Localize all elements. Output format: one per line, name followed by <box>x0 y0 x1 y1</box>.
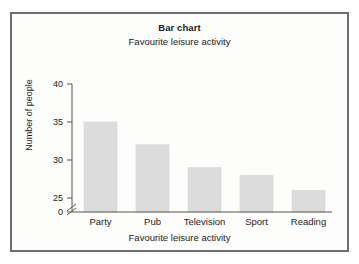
y-tick-label: 35 <box>53 117 63 127</box>
plot-svg: 025303540 PartyPubTelevisionSportReading <box>12 14 351 254</box>
x-tick-label-sport: Sport <box>245 216 268 227</box>
y-tick-label: 25 <box>53 193 63 203</box>
bar-television <box>188 168 221 212</box>
y-tick-label: 30 <box>53 155 63 165</box>
y-axis-ticks: 025303540 <box>53 79 76 217</box>
chart-figure-border: Bar chart Favourite leisure activity Num… <box>10 12 349 252</box>
x-tick-label-television: Television <box>184 216 226 227</box>
bar-reading <box>292 190 325 212</box>
bars-group <box>84 122 325 212</box>
y-tick-label: 40 <box>53 79 63 89</box>
y-tick-label: 0 <box>58 207 63 217</box>
x-tick-label-party: Party <box>89 216 111 227</box>
bar-party <box>84 122 117 212</box>
x-axis-label: Favourite leisure activity <box>12 232 347 243</box>
bar-pub <box>136 145 169 212</box>
x-tick-label-pub: Pub <box>144 216 161 227</box>
bar-sport <box>240 175 273 212</box>
x-tick-label-reading: Reading <box>291 216 326 227</box>
bar-chart: Bar chart Favourite leisure activity Num… <box>12 14 347 250</box>
x-axis-category-labels: PartyPubTelevisionSportReading <box>89 216 326 227</box>
